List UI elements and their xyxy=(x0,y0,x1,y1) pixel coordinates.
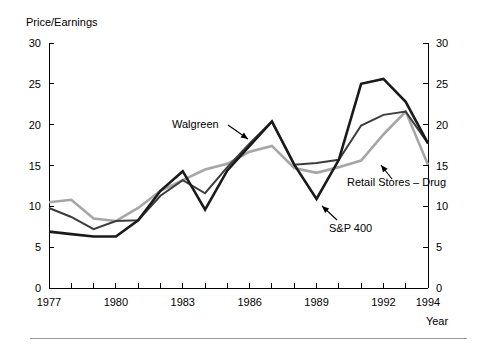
data-series-group xyxy=(49,79,428,237)
y-tick-label-right: 30 xyxy=(436,37,448,49)
y-tick-label-right: 10 xyxy=(436,200,448,212)
annotation-arrowhead xyxy=(241,133,248,139)
series-line-retail-stores-drug xyxy=(49,112,428,221)
y-axis-title: Price/Earnings xyxy=(26,16,98,28)
x-tick-label: 1992 xyxy=(371,296,395,308)
left-axis-tick-labels: 051015202530 xyxy=(29,37,41,294)
left-axis-ticks xyxy=(49,43,54,288)
right-axis-ticks xyxy=(423,43,428,288)
x-axis-ticks xyxy=(49,283,428,288)
y-tick-label-right: 0 xyxy=(436,282,442,294)
x-tick-label: 1977 xyxy=(37,296,61,308)
x-axis-title: Year xyxy=(426,315,449,327)
y-tick-label-right: 15 xyxy=(436,160,448,172)
x-tick-label: 1989 xyxy=(304,296,328,308)
y-tick-label: 30 xyxy=(29,37,41,49)
left-bottom-axis xyxy=(49,43,428,288)
y-tick-label-right: 5 xyxy=(436,241,442,253)
x-tick-label: 1983 xyxy=(171,296,195,308)
series-annotation-label: Walgreen xyxy=(172,118,219,130)
y-tick-label: 5 xyxy=(35,241,41,253)
series-annotations: WalgreenRetail Stores – DrugS&P 400 xyxy=(172,118,446,234)
series-annotation-label: S&P 400 xyxy=(329,222,372,234)
x-tick-label: 1986 xyxy=(237,296,261,308)
y-tick-label: 15 xyxy=(29,160,41,172)
y-tick-label: 25 xyxy=(29,78,41,90)
series-line-walgreen xyxy=(49,79,428,237)
series-line-s-p-400 xyxy=(49,112,428,230)
price-earnings-line-chart: Price/Earnings Year 051015202530 0510152… xyxy=(0,0,497,348)
chart-figure: Price/Earnings Year 051015202530 0510152… xyxy=(0,0,497,348)
y-tick-label-right: 20 xyxy=(436,119,448,131)
y-tick-label-right: 25 xyxy=(436,78,448,90)
series-annotation-label: Retail Stores – Drug xyxy=(347,176,446,188)
x-axis-tick-labels: 1977198019831986198919921994 xyxy=(37,296,440,308)
y-tick-label: 10 xyxy=(29,200,41,212)
right-axis-tick-labels: 051015202530 xyxy=(436,37,448,294)
y-tick-label: 0 xyxy=(35,282,41,294)
y-tick-label: 20 xyxy=(29,119,41,131)
x-tick-label: 1994 xyxy=(416,296,440,308)
x-tick-label: 1980 xyxy=(104,296,128,308)
annotation-arrowhead xyxy=(381,165,388,172)
